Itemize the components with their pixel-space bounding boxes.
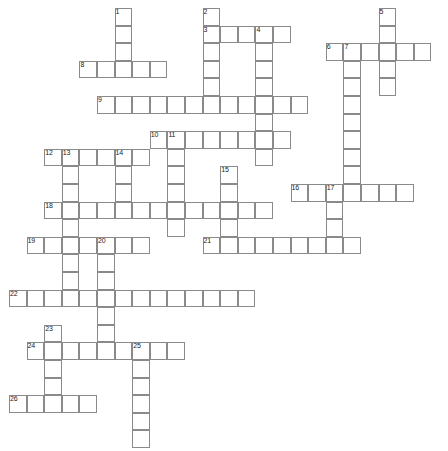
crossword-cell[interactable] <box>203 202 221 220</box>
crossword-cell[interactable] <box>343 114 361 132</box>
crossword-cell[interactable] <box>115 149 133 167</box>
crossword-cell[interactable] <box>255 96 273 114</box>
crossword-cell[interactable] <box>255 202 273 220</box>
crossword-cell[interactable] <box>115 8 133 26</box>
crossword-cell[interactable] <box>115 237 133 255</box>
crossword-cell[interactable] <box>273 131 291 149</box>
crossword-cell[interactable] <box>203 8 221 26</box>
crossword-cell[interactable] <box>27 342 45 360</box>
crossword-cell[interactable] <box>62 290 80 308</box>
crossword-cell[interactable] <box>203 78 221 96</box>
crossword-cell[interactable] <box>62 219 80 237</box>
crossword-cell[interactable] <box>150 131 168 149</box>
crossword-cell[interactable] <box>150 61 168 79</box>
crossword-cell[interactable] <box>97 237 115 255</box>
crossword-cell[interactable] <box>167 342 185 360</box>
crossword-cell[interactable] <box>115 202 133 220</box>
crossword-cell[interactable] <box>62 272 80 290</box>
crossword-cell[interactable] <box>379 184 397 202</box>
crossword-cell[interactable] <box>150 202 168 220</box>
crossword-cell[interactable] <box>79 149 97 167</box>
crossword-cell[interactable] <box>379 61 397 79</box>
crossword-cell[interactable] <box>220 237 238 255</box>
crossword-cell[interactable] <box>132 430 150 448</box>
crossword-cell[interactable] <box>44 378 62 396</box>
crossword-cell[interactable] <box>132 395 150 413</box>
crossword-cell[interactable] <box>150 290 168 308</box>
crossword-cell[interactable] <box>326 237 344 255</box>
crossword-cell[interactable] <box>343 96 361 114</box>
crossword-cell[interactable] <box>203 26 221 44</box>
crossword-cell[interactable] <box>326 184 344 202</box>
crossword-cell[interactable] <box>115 96 133 114</box>
crossword-cell[interactable] <box>150 342 168 360</box>
crossword-cell[interactable] <box>115 290 133 308</box>
crossword-cell[interactable] <box>62 149 80 167</box>
crossword-cell[interactable] <box>220 202 238 220</box>
crossword-cell[interactable] <box>326 219 344 237</box>
crossword-cell[interactable] <box>238 237 256 255</box>
crossword-cell[interactable] <box>97 254 115 272</box>
crossword-cell[interactable] <box>150 96 168 114</box>
crossword-cell[interactable] <box>203 43 221 61</box>
crossword-cell[interactable] <box>97 96 115 114</box>
crossword-cell[interactable] <box>255 237 273 255</box>
crossword-cell[interactable] <box>115 61 133 79</box>
crossword-cell[interactable] <box>97 272 115 290</box>
crossword-cell[interactable] <box>9 395 27 413</box>
crossword-cell[interactable] <box>238 96 256 114</box>
crossword-cell[interactable] <box>44 290 62 308</box>
crossword-cell[interactable] <box>203 290 221 308</box>
crossword-cell[interactable] <box>185 202 203 220</box>
crossword-cell[interactable] <box>132 360 150 378</box>
crossword-cell[interactable] <box>185 131 203 149</box>
crossword-cell[interactable] <box>379 8 397 26</box>
crossword-cell[interactable] <box>44 360 62 378</box>
crossword-cell[interactable] <box>132 342 150 360</box>
crossword-cell[interactable] <box>167 290 185 308</box>
crossword-cell[interactable] <box>62 237 80 255</box>
crossword-cell[interactable] <box>167 184 185 202</box>
crossword-cell[interactable] <box>62 254 80 272</box>
crossword-cell[interactable] <box>273 26 291 44</box>
crossword-cell[interactable] <box>97 290 115 308</box>
crossword-cell[interactable] <box>238 26 256 44</box>
crossword-cell[interactable] <box>44 395 62 413</box>
crossword-cell[interactable] <box>379 26 397 44</box>
crossword-cell[interactable] <box>167 131 185 149</box>
crossword-cell[interactable] <box>132 149 150 167</box>
crossword-cell[interactable] <box>361 43 379 61</box>
crossword-cell[interactable] <box>238 131 256 149</box>
crossword-cell[interactable] <box>115 43 133 61</box>
crossword-cell[interactable] <box>79 61 97 79</box>
crossword-cell[interactable] <box>255 78 273 96</box>
crossword-cell[interactable] <box>343 237 361 255</box>
crossword-cell[interactable] <box>220 290 238 308</box>
crossword-cell[interactable] <box>255 43 273 61</box>
crossword-cell[interactable] <box>44 149 62 167</box>
crossword-cell[interactable] <box>132 290 150 308</box>
crossword-cell[interactable] <box>79 237 97 255</box>
crossword-cell[interactable] <box>396 184 414 202</box>
crossword-cell[interactable] <box>79 395 97 413</box>
crossword-cell[interactable] <box>9 290 27 308</box>
crossword-cell[interactable] <box>27 290 45 308</box>
crossword-cell[interactable] <box>115 184 133 202</box>
crossword-cell[interactable] <box>203 96 221 114</box>
crossword-cell[interactable] <box>255 61 273 79</box>
crossword-cell[interactable] <box>414 43 432 61</box>
crossword-cell[interactable] <box>343 43 361 61</box>
crossword-cell[interactable] <box>44 325 62 343</box>
crossword-cell[interactable] <box>220 131 238 149</box>
crossword-cell[interactable] <box>185 290 203 308</box>
crossword-cell[interactable] <box>255 26 273 44</box>
crossword-cell[interactable] <box>255 131 273 149</box>
crossword-cell[interactable] <box>361 184 379 202</box>
crossword-cell[interactable] <box>273 237 291 255</box>
crossword-cell[interactable] <box>220 219 238 237</box>
crossword-cell[interactable] <box>396 43 414 61</box>
crossword-cell[interactable] <box>132 202 150 220</box>
crossword-cell[interactable] <box>220 184 238 202</box>
crossword-cell[interactable] <box>238 290 256 308</box>
crossword-cell[interactable] <box>27 395 45 413</box>
